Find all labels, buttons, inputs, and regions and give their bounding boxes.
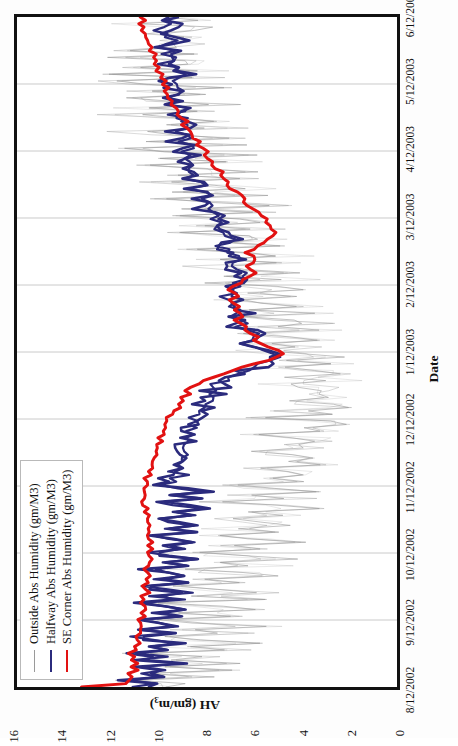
- legend-item: SE Corner Abs Humidity (gm/M3): [59, 470, 76, 672]
- legend-item-label: SE Corner Abs Humidity (gm/M3): [59, 470, 76, 644]
- y-axis-tick-label: 0: [393, 730, 408, 746]
- legend-item: Halfway Abs Humidity (gm/M3): [43, 470, 60, 672]
- x-axis-tick-label: 12/12/2002: [404, 393, 416, 445]
- y-axis-tick-label: 4: [296, 730, 311, 746]
- x-axis-tick-label: 6/12/2003: [404, 0, 416, 37]
- y-axis-title-tail: ): [150, 698, 155, 713]
- chart-legend: Outside Abs Humidity (gm/M3)Halfway Abs …: [20, 460, 83, 680]
- legend-item-label: Outside Abs Humidity (gm/M3): [26, 483, 43, 644]
- y-axis-tick-label: 8: [200, 730, 215, 746]
- x-axis-tick-label: 8/12/2002: [404, 667, 416, 714]
- x-axis-tick-label: 3/12/2003: [404, 193, 416, 240]
- y-axis-title: AH (gm/m3): [115, 695, 255, 713]
- y-axis-title-text: AH (gm/m: [159, 698, 220, 713]
- x-axis-tick-label: 5/12/2003: [404, 58, 416, 105]
- x-axis-tick-label: 4/12/2003: [404, 126, 416, 173]
- y-axis-tick-label: 12: [103, 730, 118, 746]
- legend-swatch-icon: [50, 650, 52, 672]
- x-axis-tick-label: 11/12/2002: [404, 461, 416, 513]
- y-axis-title-sup: 3: [154, 695, 159, 705]
- x-axis-title: Date: [426, 0, 442, 738]
- legend-swatch-icon: [34, 650, 35, 672]
- y-axis-tick-label: 6: [248, 730, 263, 746]
- y-axis-tick-label: 14: [55, 730, 70, 746]
- legend-item: Outside Abs Humidity (gm/M3): [26, 470, 43, 672]
- legend-item-label: Halfway Abs Humidity (gm/M3): [43, 479, 60, 644]
- x-axis-tick-label: 10/12/2002: [404, 529, 416, 581]
- y-axis-tick-label: 16: [7, 730, 22, 746]
- legend-swatch-icon: [66, 650, 68, 672]
- x-axis-tick-label: 2/12/2003: [404, 261, 416, 308]
- x-axis-tick-label: 1/12/2003: [404, 329, 416, 376]
- x-axis-tick-label: 9/12/2002: [404, 599, 416, 646]
- y-axis-tick-label: 10: [151, 730, 166, 746]
- y-axis-tick-label: 2: [344, 730, 359, 746]
